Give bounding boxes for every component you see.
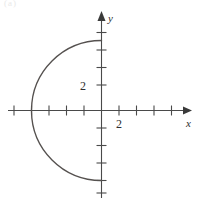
y-axis-label: y	[107, 12, 113, 24]
x-axis-label: x	[185, 117, 191, 129]
y-axis-arrow-icon	[98, 11, 106, 21]
x-tick-label-2: 2	[116, 117, 122, 131]
y-tick-label-2: 2	[80, 79, 86, 93]
graph-plot: y x 2 2	[0, 0, 199, 205]
x-axis-arrow-icon	[183, 107, 192, 115]
figure-container: (a)	[0, 0, 199, 205]
